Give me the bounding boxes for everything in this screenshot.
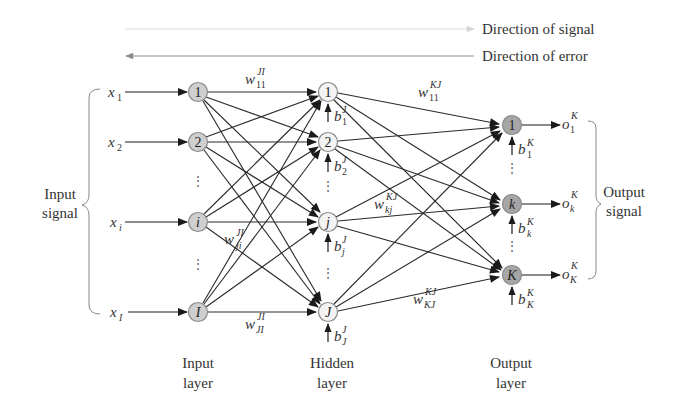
svg-text:k: k xyxy=(570,203,575,214)
input-signals: x 1 x 2 x i x I xyxy=(107,84,187,323)
legend: Direction of signal Direction of error xyxy=(125,21,594,64)
output-ellipsis-1: ⋮ xyxy=(506,161,518,175)
hidden-node-2: 2 xyxy=(319,133,338,152)
svg-text:K: K xyxy=(526,287,535,298)
svg-text:2: 2 xyxy=(342,166,347,177)
output-brace xyxy=(588,121,601,279)
svg-text:JI: JI xyxy=(236,227,244,238)
svg-text:K: K xyxy=(526,299,535,310)
svg-text:w: w xyxy=(245,71,255,87)
weight-w11-JI: w JI 11 xyxy=(245,66,266,90)
svg-text:K: K xyxy=(526,137,535,148)
svg-text:11: 11 xyxy=(429,92,439,103)
weight-wJI-JI: w JI JI xyxy=(245,311,265,335)
svg-text:J: J xyxy=(342,234,347,245)
svg-text:KJ: KJ xyxy=(423,299,436,310)
input-ellipsis-1: ⋮ xyxy=(192,174,204,188)
weight-wKJ-KJ: w KJ KJ xyxy=(413,286,437,310)
output-bias-k: b K k xyxy=(512,216,535,239)
svg-text:J: J xyxy=(342,104,347,115)
svg-text:KJ: KJ xyxy=(429,79,442,90)
svg-text:2: 2 xyxy=(325,135,332,150)
svg-text:o: o xyxy=(562,195,570,211)
svg-text:1: 1 xyxy=(527,149,532,160)
svg-text:b: b xyxy=(334,328,342,344)
svg-text:b: b xyxy=(518,291,526,307)
output-ellipsis-2: ⋮ xyxy=(506,239,518,253)
svg-text:i: i xyxy=(119,222,122,233)
output-layer-label-1: Output xyxy=(490,355,533,371)
svg-text:JI: JI xyxy=(256,324,264,335)
svg-text:x: x xyxy=(107,134,115,150)
input-xI: x I xyxy=(109,304,187,323)
input-layer-nodes: 1 2 i I ⋮ ⋮ xyxy=(189,83,208,322)
hidden-bias-2: b J 2 xyxy=(328,154,347,177)
svg-text:w: w xyxy=(245,316,255,332)
svg-text:K: K xyxy=(506,268,517,283)
hidden-layer-label-1: Hidden xyxy=(310,355,355,371)
svg-text:KJ: KJ xyxy=(424,286,437,297)
svg-text:K: K xyxy=(570,189,579,200)
svg-text:o: o xyxy=(562,266,570,282)
svg-text:k: k xyxy=(509,197,516,212)
svg-text:k: k xyxy=(527,228,532,239)
svg-text:1: 1 xyxy=(570,124,575,135)
svg-text:x: x xyxy=(109,214,117,230)
output-node-1: 1 xyxy=(503,116,522,135)
input-brace xyxy=(82,89,100,314)
input-signal-label-2: signal xyxy=(42,205,78,221)
svg-text:ji: ji xyxy=(234,240,242,251)
svg-text:1: 1 xyxy=(325,85,332,100)
input-x1: x 1 xyxy=(107,84,187,103)
svg-text:JI: JI xyxy=(257,311,265,322)
hidden-ellipsis-1: ⋮ xyxy=(322,179,334,193)
hidden-bias-1: b J 1 xyxy=(328,104,347,127)
hidden-layer-label-2: layer xyxy=(317,375,347,391)
svg-text:J: J xyxy=(342,324,347,335)
input-node-1: 1 xyxy=(189,83,208,102)
input-node-I: I xyxy=(189,303,208,322)
input-hidden-connections xyxy=(203,92,321,312)
hidden-ellipsis-2: ⋮ xyxy=(322,266,334,280)
svg-text:11: 11 xyxy=(256,79,266,90)
svg-text:w: w xyxy=(374,196,384,212)
svg-text:KJ: KJ xyxy=(385,191,398,202)
svg-text:K: K xyxy=(569,274,578,285)
svg-text:x: x xyxy=(109,304,117,320)
svg-text:1: 1 xyxy=(509,118,516,133)
hidden-node-1: 1 xyxy=(319,83,338,102)
output-node-K: K xyxy=(503,266,522,285)
input-node-i: i xyxy=(189,213,208,232)
output-signal-label-1: Output xyxy=(603,184,646,200)
svg-text:J: J xyxy=(342,336,347,347)
layer-labels: Input layer Hidden layer Output layer xyxy=(182,355,533,391)
output-ok: o K k xyxy=(522,189,579,214)
svg-text:kj: kj xyxy=(385,204,392,215)
hidden-bias-J: b J J xyxy=(328,324,347,347)
neural-network-diagram: Direction of signal Direction of error xyxy=(0,0,676,410)
output-signal-label-2: signal xyxy=(606,203,642,219)
svg-text:2: 2 xyxy=(117,142,122,153)
hidden-node-J: J xyxy=(319,303,338,322)
svg-text:JI: JI xyxy=(257,66,265,77)
svg-text:b: b xyxy=(334,238,342,254)
output-bias-1: b K 1 xyxy=(512,137,535,160)
input-signal-label-1: Input xyxy=(44,186,76,202)
output-oK: o K K xyxy=(522,260,579,285)
svg-text:1: 1 xyxy=(195,85,202,100)
svg-text:w: w xyxy=(413,291,423,307)
svg-text:J: J xyxy=(342,154,347,165)
svg-text:K: K xyxy=(526,216,535,227)
hidden-output-connections xyxy=(334,93,502,311)
svg-text:I: I xyxy=(118,312,123,323)
svg-text:w: w xyxy=(224,231,234,247)
hidden-bias-j: b J j xyxy=(328,234,347,257)
input-layer-label-2: layer xyxy=(183,375,213,391)
hidden-node-j: j xyxy=(319,213,338,232)
output-layer-label-2: layer xyxy=(496,375,526,391)
svg-text:K: K xyxy=(570,110,579,121)
svg-text:2: 2 xyxy=(195,135,202,150)
weight-w11-KJ: w KJ 11 xyxy=(418,79,442,103)
input-xi: x i xyxy=(109,214,187,233)
input-layer-label-1: Input xyxy=(182,355,214,371)
